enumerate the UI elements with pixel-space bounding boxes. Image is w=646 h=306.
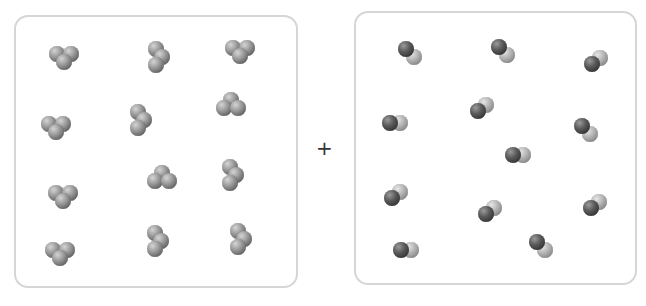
atom xyxy=(393,242,409,258)
atom xyxy=(148,57,164,73)
atom xyxy=(230,100,246,116)
atom xyxy=(161,173,177,189)
atom xyxy=(505,147,521,163)
atom xyxy=(55,193,71,209)
atom xyxy=(222,175,238,191)
atom xyxy=(382,115,398,131)
atom xyxy=(147,241,163,257)
atom xyxy=(130,120,146,136)
atom xyxy=(230,239,246,255)
atom xyxy=(52,250,68,266)
atom xyxy=(56,54,72,70)
plus-sign: + xyxy=(316,138,333,158)
atom xyxy=(48,124,64,140)
atom xyxy=(232,48,248,64)
